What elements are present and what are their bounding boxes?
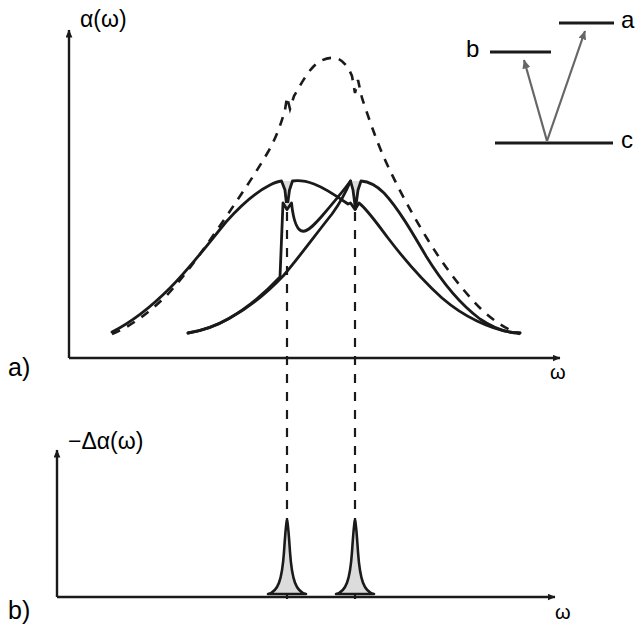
- panel-a-y-axis-label: α(ω): [80, 8, 127, 31]
- doppler-envelope-curve: [112, 58, 520, 334]
- energy-level-b-label: b: [466, 37, 479, 61]
- panel-b-y-axis-label: −Δα(ω): [68, 430, 143, 453]
- energy-level-c-label: c: [621, 128, 633, 152]
- figure-canvas: [0, 0, 641, 635]
- figure-root: a) b) α(ω) −Δα(ω) ω ω a b c: [0, 0, 641, 635]
- panel-b-x-axis-label: ω: [555, 602, 571, 622]
- energy-level-a-label: a: [621, 8, 634, 32]
- transition-arrow-c-to-a: [547, 31, 585, 141]
- energy-level-diagram: [490, 23, 614, 143]
- panel-a-tag: a): [8, 355, 30, 380]
- panel-a-x-axis-label: ω: [550, 362, 566, 382]
- difference-peak-2: [336, 520, 374, 594]
- panel-b-axes: [57, 450, 555, 597]
- panel-b-tag: b): [8, 598, 30, 623]
- panel-a-axes: [69, 30, 560, 358]
- saturated-absorption-right-flank: [188, 181, 351, 333]
- saturated-absorption-left-curve: [112, 181, 520, 333]
- transition-arrow-c-to-b: [524, 60, 547, 141]
- difference-peak-1: [268, 520, 306, 594]
